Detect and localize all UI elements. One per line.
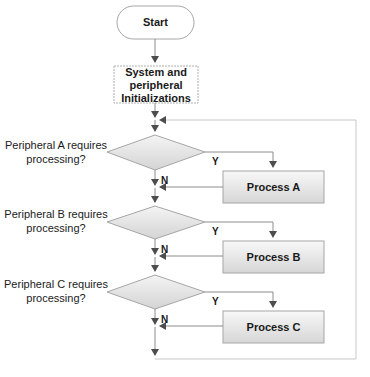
decision-c-question-line-2: processing? [2,291,110,305]
decision-c-no-label: N [161,314,168,325]
init-label-line-3: Initializations [112,92,200,105]
init-label-line-1: System and [112,66,200,79]
decision-diamond-c [107,275,205,309]
decision-diamond-a [107,135,205,170]
decision-a-question-line-2: processing? [2,152,110,166]
process-a-label: Process A [223,181,324,194]
decision-c-question: Peripheral C requires processing? [2,277,110,305]
decision-a-question-line-1: Peripheral A requires [2,138,110,152]
decision-b-yes-label: Y [212,226,219,237]
decision-b-question-line-2: processing? [2,221,110,235]
decision-b-question-line-1: Peripheral B requires [2,207,110,221]
process-b-label: Process B [223,251,324,264]
decision-a-question: Peripheral A requires processing? [2,138,110,166]
decision-a-no-label: N [161,175,168,186]
init-label-line-2: peripheral [112,79,200,92]
process-c-label: Process C [223,321,324,334]
start-label: Start [117,16,194,29]
decision-b-no-label: N [161,244,168,255]
decision-a-yes-label: Y [212,156,219,167]
decision-b-question: Peripheral B requires processing? [2,207,110,235]
decision-c-question-line-1: Peripheral C requires [2,277,110,291]
decision-diamond-b [107,206,205,239]
init-label: System and peripheral Initializations [112,66,200,105]
decision-c-yes-label: Y [212,296,219,307]
